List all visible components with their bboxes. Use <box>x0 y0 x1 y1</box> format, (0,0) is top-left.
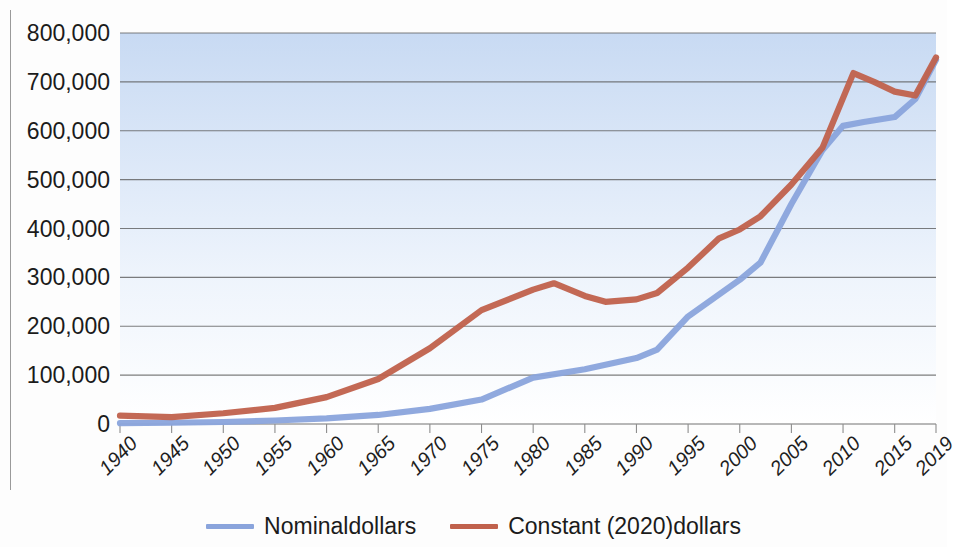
legend-label: Constant (2020)dollars <box>508 513 741 540</box>
y-tick-label: 200,000 <box>27 313 110 340</box>
legend-item[interactable]: Nominaldollars <box>206 513 416 540</box>
y-tick-label: 600,000 <box>27 117 110 144</box>
legend-item[interactable]: Constant (2020)dollars <box>450 513 741 540</box>
y-tick-label: 300,000 <box>27 264 110 291</box>
x-axis: 1940194519501955196019651970197519801985… <box>0 432 947 502</box>
y-tick-label: 500,000 <box>27 166 110 193</box>
y-tick-label: 800,000 <box>27 20 110 47</box>
legend-label: Nominaldollars <box>264 513 416 540</box>
chart-legend: NominaldollarsConstant (2020)dollars <box>0 508 947 544</box>
y-tick-label: 700,000 <box>27 68 110 95</box>
y-tick-label: 400,000 <box>27 215 110 242</box>
legend-color-swatch <box>450 524 498 529</box>
y-tick-label: 100,000 <box>27 362 110 389</box>
legend-color-swatch <box>206 524 254 529</box>
